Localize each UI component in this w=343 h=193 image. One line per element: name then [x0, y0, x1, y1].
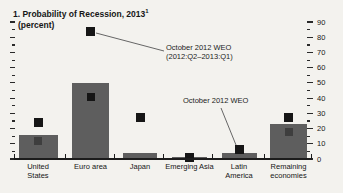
annotation-october-2012-weo-full: October 2012 WEO (2012:Q2–2013:Q1): [166, 44, 233, 61]
y-axis-major-tick-right: [307, 128, 313, 129]
y-axis-minor-tick-left: [12, 44, 15, 45]
y-axis-major-tick-right: [307, 21, 313, 22]
annotation-line2: (2012:Q2–2013:Q1): [166, 53, 233, 62]
y-axis-major-tick-left: [10, 98, 15, 99]
inner-marker-remaining-economies: [285, 128, 293, 136]
october-2012-weo-marker-euro-area: [86, 27, 95, 36]
october-2012-weo-marker-japan: [136, 113, 145, 122]
y-axis-major-tick-right: [307, 52, 313, 53]
y-axis-minor-tick-left: [12, 90, 15, 91]
y-axis-minor-tick-left: [12, 136, 15, 137]
y-axis-tick-label: 40: [317, 94, 325, 103]
y-axis-major-tick-left: [10, 128, 15, 129]
y-axis-major-tick-right: [307, 113, 313, 114]
y-axis-minor-tick-left: [12, 75, 15, 76]
inner-marker-euro-area: [87, 93, 95, 101]
y-axis-major-tick-left: [10, 21, 15, 22]
panel-title-footnote-marker: 1: [145, 8, 148, 14]
october-2012-weo-marker-remaining-economies: [284, 113, 293, 122]
y-axis-major-tick-right: [307, 98, 313, 99]
x-axis-line: [14, 158, 312, 160]
annotation-october-2012-weo-short: October 2012 WEO: [183, 97, 248, 106]
y-axis-major-tick-right: [307, 67, 313, 68]
y-axis-major-tick-left: [10, 113, 15, 114]
y-axis-major-tick-left: [10, 52, 15, 53]
y-axis-tick-label: 70: [317, 48, 325, 57]
inner-marker-united-states: [34, 137, 42, 145]
y-axis-tick-label: 10: [317, 139, 325, 148]
y-axis-major-tick-left: [10, 67, 15, 68]
y-axis-minor-tick-right: [307, 120, 310, 121]
y-axis-minor-tick-right: [307, 136, 310, 137]
y-axis-major-tick-left: [10, 37, 15, 38]
y-axis-minor-tick-right: [307, 44, 310, 45]
y-axis-major-tick-right: [307, 82, 313, 83]
y-axis-major-tick-left: [10, 82, 15, 83]
y-axis-minor-tick-right: [307, 75, 310, 76]
y-axis-minor-tick-left: [12, 151, 15, 152]
y-axis-tick-label: 80: [317, 33, 325, 42]
y-axis-minor-tick-left: [12, 120, 15, 121]
y-axis-minor-tick-left: [12, 105, 15, 106]
y-axis-tick-label: 50: [317, 78, 325, 87]
panel-title: 1. Probability of Recession, 20131 (perc…: [13, 6, 149, 31]
y-axis-major-tick-left: [10, 143, 15, 144]
category-label-line: States: [0, 172, 80, 181]
y-axis-tick-label: 90: [317, 18, 325, 27]
annotation-pointer-line-euro-square: [96, 33, 164, 51]
y-axis-tick-label: 60: [317, 63, 325, 72]
panel-title-text: 1. Probability of Recession, 2013: [13, 9, 145, 19]
y-axis-minor-tick-right: [307, 29, 310, 30]
y-axis-minor-tick-right: [307, 105, 310, 106]
y-axis-major-tick-right: [307, 37, 313, 38]
category-label-remaining-economies: Remainingeconomies: [247, 163, 331, 181]
category-label-line: economies: [247, 172, 331, 181]
panel-subtitle: (percent): [18, 20, 149, 31]
annotation-pointer-line-latin-america-square: [221, 108, 236, 145]
y-axis-tick-label: 20: [317, 124, 325, 133]
y-axis-tick-label: 30: [317, 109, 325, 118]
y-axis-minor-tick-right: [307, 60, 310, 61]
y-axis-minor-tick-right: [307, 90, 310, 91]
annotation-line1: October 2012 WEO: [183, 97, 248, 106]
y-axis-minor-tick-left: [12, 60, 15, 61]
october-2012-weo-marker-latin-america: [235, 145, 244, 154]
y-axis-major-tick-right: [307, 143, 313, 144]
y-axis-minor-tick-left: [12, 29, 15, 30]
october-2012-weo-marker-united-states: [34, 118, 43, 127]
recession-probability-chart-panel: 1. Probability of Recession, 20131 (perc…: [0, 0, 343, 193]
y-axis-minor-tick-right: [307, 151, 310, 152]
